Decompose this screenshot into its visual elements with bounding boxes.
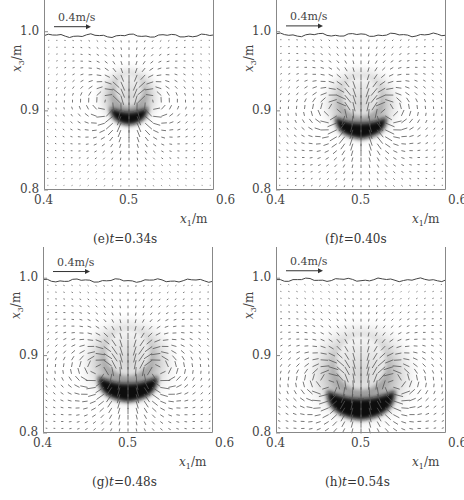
caption-prefix: (e) xyxy=(93,232,109,246)
x-axis-label: x1/m xyxy=(412,212,439,228)
y-label-var: x xyxy=(10,65,24,72)
x-tick-label: 0.6 xyxy=(448,194,464,206)
free-surface-line xyxy=(276,278,446,282)
y-axis-label: x3/m xyxy=(10,45,26,72)
vector-field-plot xyxy=(276,8,446,190)
x-tick-label: 0.5 xyxy=(119,194,138,206)
x-label-var: x xyxy=(412,455,419,469)
x-tick-label: 0.5 xyxy=(351,194,370,206)
x-tick-label: 0.4 xyxy=(266,194,285,206)
panel-h: 0.4m/s0.80.91.00.40.50.6x3/mx1/m(h)t=0.5… xyxy=(276,255,446,433)
x-axis-label: x1/m xyxy=(412,455,439,471)
panel-caption: (e)t=0.34s xyxy=(93,232,157,246)
x-label-unit: /m xyxy=(424,455,439,469)
velocity-vectors xyxy=(279,40,444,188)
y-tick-label: 0.9 xyxy=(20,104,39,116)
caption-value: =0.48s xyxy=(114,475,157,489)
free-surface-line xyxy=(44,34,214,38)
scale-arrow xyxy=(54,24,91,29)
x-tick-label: 0.5 xyxy=(118,437,137,449)
y-label-sub: 3 xyxy=(249,307,258,312)
scale-arrow xyxy=(53,269,90,274)
free-surface-line xyxy=(43,279,213,283)
scale-arrow xyxy=(286,23,323,28)
y-tick-label: 0.9 xyxy=(252,349,271,361)
x-tick-label: 0.4 xyxy=(266,437,285,449)
y-tick-label: 1.0 xyxy=(19,271,38,283)
y-label-unit: /m xyxy=(10,45,24,60)
y-label-unit: /m xyxy=(9,292,23,307)
y-label-sub: 3 xyxy=(16,307,25,312)
panel-caption: (h)t=0.54s xyxy=(325,475,390,489)
y-label-unit: /m xyxy=(242,292,256,307)
y-tick-label: 0.9 xyxy=(252,104,271,116)
y-axis-label: x3/m xyxy=(242,45,258,72)
caption-value: =0.54s xyxy=(347,475,390,489)
x-label-unit: /m xyxy=(191,455,206,469)
vector-field-plot xyxy=(276,255,446,433)
scale-label: 0.4m/s xyxy=(290,255,327,268)
x-axis-label: x1/m xyxy=(180,212,207,228)
panel-g: 0.4m/s0.80.91.00.40.50.6x3/mx1/m(g)t=0.4… xyxy=(43,255,213,433)
x-tick-label: 0.6 xyxy=(215,437,234,449)
y-tick-label: 1.0 xyxy=(252,271,271,283)
scale-label: 0.4m/s xyxy=(58,11,95,24)
caption-value: =0.40s xyxy=(344,232,387,246)
x-label-var: x xyxy=(179,455,186,469)
caption-prefix: (h) xyxy=(325,475,342,489)
y-tick-label: 1.0 xyxy=(252,25,271,37)
caption-prefix: (f) xyxy=(325,232,339,246)
free-surface-line xyxy=(276,33,446,37)
caption-prefix: (g) xyxy=(92,475,109,489)
x-label-unit: /m xyxy=(192,212,207,226)
scale-label: 0.4m/s xyxy=(290,10,327,23)
y-axis-label: x3/m xyxy=(9,292,25,319)
x-label-var: x xyxy=(412,212,419,226)
x-tick-label: 0.6 xyxy=(448,437,464,449)
y-label-sub: 3 xyxy=(17,60,26,65)
caption-value: =0.34s xyxy=(114,232,157,246)
x-label-var: x xyxy=(180,212,187,226)
panel-f: 0.4m/s0.80.91.00.40.50.6x3/mx1/m(f)t=0.4… xyxy=(276,8,446,190)
scale-label: 0.4m/s xyxy=(57,256,94,269)
y-label-var: x xyxy=(242,65,256,72)
y-label-sub: 3 xyxy=(249,60,258,65)
vector-field-plot xyxy=(44,8,214,190)
scale-arrow xyxy=(286,268,323,273)
y-tick-label: 1.0 xyxy=(20,25,39,37)
y-label-var: x xyxy=(242,312,256,319)
velocity-vectors xyxy=(47,40,211,186)
x-tick-label: 0.6 xyxy=(216,194,235,206)
x-tick-label: 0.4 xyxy=(33,437,52,449)
x-tick-label: 0.4 xyxy=(34,194,53,206)
y-tick-label: 0.9 xyxy=(19,349,38,361)
y-axis-label: x3/m xyxy=(242,292,258,319)
x-label-unit: /m xyxy=(424,212,439,226)
panel-caption: (f)t=0.40s xyxy=(325,232,387,246)
velocity-vectors xyxy=(46,285,211,431)
y-label-var: x xyxy=(9,312,23,319)
y-label-unit: /m xyxy=(242,45,256,60)
x-axis-label: x1/m xyxy=(179,455,206,471)
x-tick-label: 0.5 xyxy=(351,437,370,449)
vector-field-plot xyxy=(43,255,213,433)
panel-caption: (g)t=0.48s xyxy=(92,475,157,489)
panel-e: 0.4m/s0.80.91.00.40.50.6x3/mx1/m(e)t=0.3… xyxy=(44,8,214,190)
